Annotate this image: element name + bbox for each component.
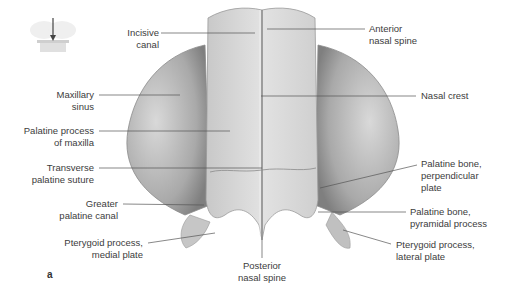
left-maxillary-sinus — [127, 45, 210, 215]
label-anterior-nasal-spine: Anterior nasal spine — [369, 23, 417, 47]
label-palatine-bone-perpendicular-plate: Palatine bone, perpendicular plate — [421, 158, 482, 194]
label-maxillary-sinus: Maxillary sinus — [57, 89, 94, 113]
label-greater-palatine-canal: Greater palatine canal — [59, 198, 118, 222]
label-incisive-canal: Incisive canal — [127, 27, 159, 51]
label-palatine-bone-pyramidal-process: Palatine bone, pyramidal process — [410, 206, 487, 230]
label-pterygoid-process-lateral-plate: Pterygoid process, lateral plate — [396, 239, 475, 263]
label-posterior-nasal-spine: Posterior nasal spine — [227, 260, 297, 284]
skull-orientation-arrow-icon — [30, 18, 76, 52]
right-maxillary-sinus — [315, 45, 399, 215]
anatomical-figure-hard-palate: Incisive canal Anterior nasal spine Maxi… — [0, 0, 508, 292]
label-transverse-palatine-suture: Transverse palatine suture — [32, 162, 94, 186]
label-pterygoid-process-medial-plate: Pterygoid process, medial plate — [64, 237, 143, 261]
label-palatine-process-of-maxilla: Palatine process of maxilla — [24, 125, 94, 149]
label-nasal-crest: Nasal crest — [421, 90, 469, 102]
panel-letter: a — [47, 269, 53, 280]
